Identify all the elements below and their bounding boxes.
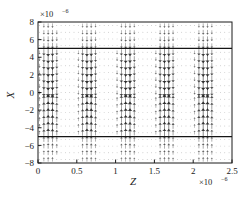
field-arrow [216, 92, 217, 93]
field-arrow [104, 146, 105, 147]
field-arrow [147, 126, 148, 127]
field-arrow [229, 32, 230, 33]
field-arrow [229, 65, 230, 66]
field-arrow [61, 65, 62, 66]
field-arrow [112, 79, 113, 80]
field-arrow [151, 99, 152, 100]
field-arrow [61, 72, 62, 73]
field-arrow [138, 25, 139, 26]
field-arrow [112, 59, 113, 60]
field-arrow [65, 119, 66, 120]
field-arrow [220, 65, 221, 66]
field-arrow [224, 92, 225, 93]
field-arrow [69, 79, 70, 80]
field-arrow [229, 45, 230, 46]
field-arrow [78, 38, 79, 39]
field-arrow [138, 79, 139, 80]
field-arrow [151, 52, 152, 53]
field-arrow [117, 45, 118, 46]
field-arrow [112, 92, 113, 93]
field-arrow [78, 152, 79, 153]
field-arrow [147, 59, 148, 60]
field-arrow [99, 146, 100, 147]
field-arrow [104, 139, 105, 140]
field-arrow [155, 146, 156, 147]
field-arrow [151, 72, 152, 73]
field-arrow [224, 25, 225, 26]
field-arrow [147, 85, 148, 86]
field-arrow [177, 65, 178, 66]
field-arrow [181, 92, 182, 93]
field-arrow [74, 38, 75, 39]
field-arrow [74, 65, 75, 66]
field-arrow [74, 52, 75, 53]
field-arrow [216, 99, 217, 100]
field-arrow [138, 32, 139, 33]
field-arrow [190, 32, 191, 33]
field-arrow [177, 59, 178, 60]
field-arrow [138, 59, 139, 60]
field-arrow [99, 72, 100, 73]
field-arrow [216, 152, 217, 153]
field-arrow [181, 32, 182, 33]
field-arrow [65, 65, 66, 66]
field-arrow [74, 119, 75, 120]
field-arrow [108, 65, 109, 66]
field-arrow [108, 152, 109, 153]
field-arrow [104, 32, 105, 33]
y-exponent-base: ×10 [40, 9, 53, 19]
y-tick-label: 4 [30, 52, 35, 62]
field-arrow [61, 152, 62, 153]
field-arrow [65, 92, 66, 93]
field-arrow [194, 25, 195, 26]
field-arrow [190, 65, 191, 66]
field-arrow [229, 79, 230, 80]
field-arrow [181, 45, 182, 46]
field-arrow [147, 52, 148, 53]
field-arrow [220, 119, 221, 120]
field-arrow [151, 32, 152, 33]
field-arrow [99, 159, 100, 160]
field-arrow [65, 45, 66, 46]
field-arrow [74, 59, 75, 60]
field-arrow [142, 38, 143, 39]
field-arrow [190, 126, 191, 127]
field-arrow [99, 92, 100, 93]
field-arrow [69, 105, 70, 106]
field-arrow [65, 79, 66, 80]
field-arrow [142, 139, 143, 140]
field-arrow [112, 119, 113, 120]
field-arrow [224, 112, 225, 113]
field-arrow [181, 59, 182, 60]
field-arrow [224, 119, 225, 120]
field-arrow [78, 45, 79, 46]
field-arrow [78, 25, 79, 26]
field-arrow [69, 45, 70, 46]
field-arrow [177, 105, 178, 106]
field-arrow [61, 99, 62, 100]
field-arrow [61, 126, 62, 127]
field-arrow [104, 152, 105, 153]
field-arrow [220, 146, 221, 147]
field-arrow [74, 25, 75, 26]
field-arrow [229, 72, 230, 73]
field-arrow [151, 25, 152, 26]
field-arrow [155, 139, 156, 140]
field-arrow [190, 152, 191, 153]
field-arrow [108, 119, 109, 120]
field-arrow [69, 52, 70, 53]
field-arrow [99, 79, 100, 80]
field-arrow [61, 132, 62, 133]
y-axis-ticks: 86420−2−4−6−8 [24, 17, 41, 168]
field-arrow [74, 132, 75, 133]
field-arrow [39, 32, 40, 33]
field-arrow [224, 85, 225, 86]
field-arrow [181, 112, 182, 113]
field-arrow [65, 105, 66, 106]
field-arrow [216, 85, 217, 86]
field-arrow [104, 159, 105, 160]
field-arrow [104, 59, 105, 60]
field-arrow [117, 152, 118, 153]
x-tick-label: 0.5 [71, 166, 83, 176]
field-arrow [194, 139, 195, 140]
